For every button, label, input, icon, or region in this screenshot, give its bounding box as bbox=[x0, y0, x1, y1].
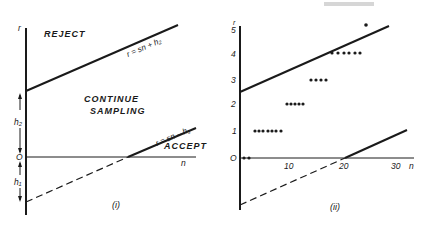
panel-i-x-axis-label: n bbox=[181, 158, 186, 168]
panel-i-y-axis-label: r bbox=[18, 23, 22, 33]
panel-ii bbox=[240, 26, 414, 210]
h1-arrowhead-down-icon bbox=[18, 196, 22, 202]
data-point bbox=[261, 129, 264, 132]
panel-ii-reject-line bbox=[240, 26, 389, 92]
region-continue-label-line1: CONTINUE bbox=[84, 94, 139, 104]
x-tick-30: 30 bbox=[391, 161, 401, 171]
data-point bbox=[347, 51, 350, 54]
panel-ii-caption: (ii) bbox=[330, 202, 340, 212]
data-point bbox=[353, 51, 356, 54]
y-tick-5: 5 bbox=[231, 25, 236, 35]
h2-label: h₂ bbox=[14, 117, 23, 127]
data-point bbox=[274, 129, 277, 132]
panel-i-caption: (i) bbox=[112, 200, 120, 210]
data-point bbox=[242, 156, 245, 159]
data-point bbox=[319, 78, 322, 81]
data-point bbox=[247, 156, 250, 159]
data-point bbox=[336, 51, 339, 54]
h1-label: h₁ bbox=[14, 177, 22, 187]
y-tick-1: 1 bbox=[232, 126, 237, 136]
sequential-sampling-diagram: r REJECT r = sn + h₂ CONTINUE SAMPLING h… bbox=[0, 0, 430, 226]
panel-i-origin-label: O bbox=[16, 152, 23, 162]
region-accept-label: ACCEPT bbox=[163, 141, 208, 151]
x-tick-10: 10 bbox=[284, 161, 294, 171]
region-continue-label-line2: SAMPLING bbox=[90, 106, 146, 116]
panel-i bbox=[18, 25, 196, 215]
data-point bbox=[314, 78, 317, 81]
data-point bbox=[364, 23, 368, 27]
y-tick-2: 2 bbox=[230, 99, 236, 109]
data-point bbox=[279, 129, 282, 132]
data-point bbox=[330, 51, 333, 54]
data-point bbox=[301, 102, 304, 105]
data-point bbox=[297, 102, 300, 105]
data-point bbox=[309, 78, 312, 81]
data-point bbox=[324, 78, 327, 81]
data-point bbox=[342, 51, 345, 54]
h2-arrowhead-up-icon bbox=[18, 93, 22, 99]
data-point bbox=[289, 102, 292, 105]
panel-i-accept-line-dashed bbox=[26, 157, 128, 202]
data-point bbox=[257, 129, 260, 132]
panel-ii-origin-label: O bbox=[230, 153, 237, 163]
data-point bbox=[293, 102, 296, 105]
data-point bbox=[253, 129, 256, 132]
data-point bbox=[285, 102, 288, 105]
panel-ii-accept-line bbox=[345, 130, 407, 158]
data-point bbox=[358, 51, 361, 54]
y-tick-4: 4 bbox=[231, 49, 236, 59]
x-tick-20: 20 bbox=[338, 161, 349, 171]
data-point bbox=[266, 129, 269, 132]
region-reject-label: REJECT bbox=[44, 29, 86, 39]
panel-ii-x-axis-label: n bbox=[409, 161, 414, 171]
y-tick-3: 3 bbox=[231, 75, 236, 85]
data-point bbox=[270, 129, 273, 132]
